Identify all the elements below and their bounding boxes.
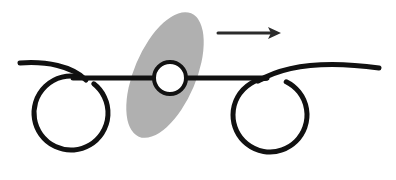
right-wheel-loop bbox=[233, 78, 307, 152]
right-tail-curve bbox=[258, 64, 379, 81]
center-hub-circle bbox=[154, 62, 186, 94]
wheel-mechanism-diagram bbox=[0, 0, 396, 180]
left-wheel-loop bbox=[34, 76, 108, 150]
diagram-canvas bbox=[0, 0, 396, 180]
